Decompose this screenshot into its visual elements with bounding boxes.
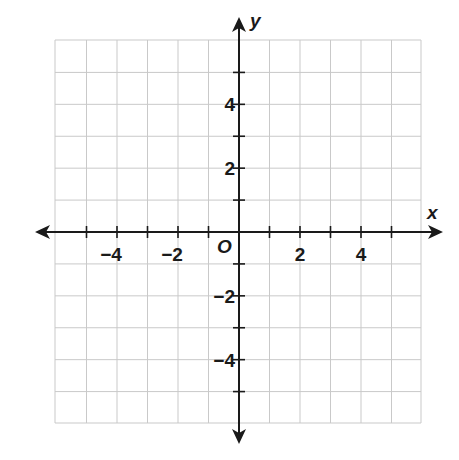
x-tick-label: 4 [356,244,367,265]
y-tick-label: 4 [224,94,235,115]
x-tick-label: −2 [161,244,183,265]
origin-label: O [217,236,232,257]
x-axis-label: x [426,202,439,223]
x-tick-label: −4 [100,244,122,265]
coordinate-plane: −4−22442−2−4 x y O [0,0,459,460]
x-tick-label: 2 [295,244,306,265]
y-tick-label: −2 [213,286,235,307]
axes [35,17,443,444]
y-axis-label: y [249,10,262,31]
y-tick-label: 2 [224,158,235,179]
y-tick-label: −4 [213,350,235,371]
